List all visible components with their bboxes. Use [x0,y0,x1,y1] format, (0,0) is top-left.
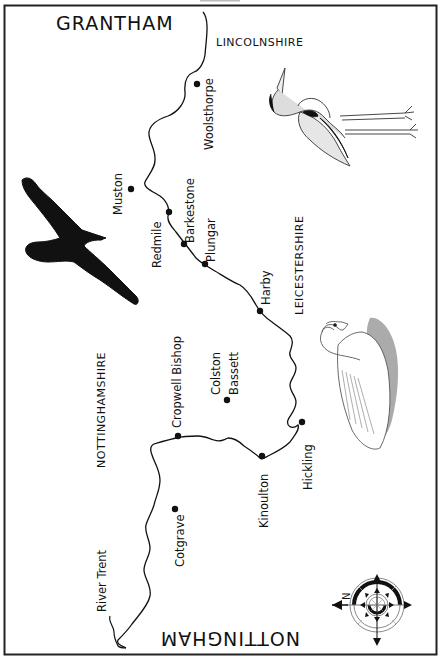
compass-rose-icon: N [332,574,412,646]
town-dot-woolsthorpe [194,81,200,87]
town-dot-colston-bassett [224,397,230,403]
town-dot-muston [128,186,134,192]
town-label-barkestone: Barkestone [183,178,197,243]
town-dot-redmile [166,209,172,215]
city-label-grantham: GRANTHAM [56,12,174,34]
town-dot-harby [257,308,263,314]
town-dot-kinoulton [259,453,265,459]
town-label-kinoulton: Kinoulton [257,474,271,528]
town-dot-cotgrave [172,506,178,512]
town-dot-hickling [299,419,305,425]
heron-illustration [270,68,418,166]
town-label-woolsthorpe: Woolsthorpe [202,78,216,150]
town-label-cropwell-bishop: Cropwell Bishop [170,336,184,428]
county-label-lincolnshire: LINCOLNSHIRE [216,36,303,49]
town-label-cotgrave: Cotgrave [173,514,187,567]
town-label-harby: Harby [259,270,273,305]
town-label-redmile: Redmile [150,221,164,268]
town-label-muston: Muston [111,173,125,215]
river-trent-label: River Trent [95,549,109,612]
town-label-colston: Colston [209,352,223,395]
city-label-nottingham: NOTTINGHAM [160,628,300,650]
town-dot-cropwell-bishop [175,433,181,439]
town-label-bassett: Bassett [227,351,241,395]
swan-illustration [320,318,398,449]
county-label-nottinghamshire: NOTTINGHAMSHIRE [95,352,108,468]
town-label-hickling: Hickling [301,444,315,490]
compass-north-label: N [341,593,352,600]
canal-route-map: GRANTHAM NOTTINGHAM LINCOLNSHIRE LEICEST… [0,0,443,661]
town-label-plungar: Plungar [204,218,218,262]
county-label-leicestershire: LEICESTERSHIRE [293,216,306,315]
